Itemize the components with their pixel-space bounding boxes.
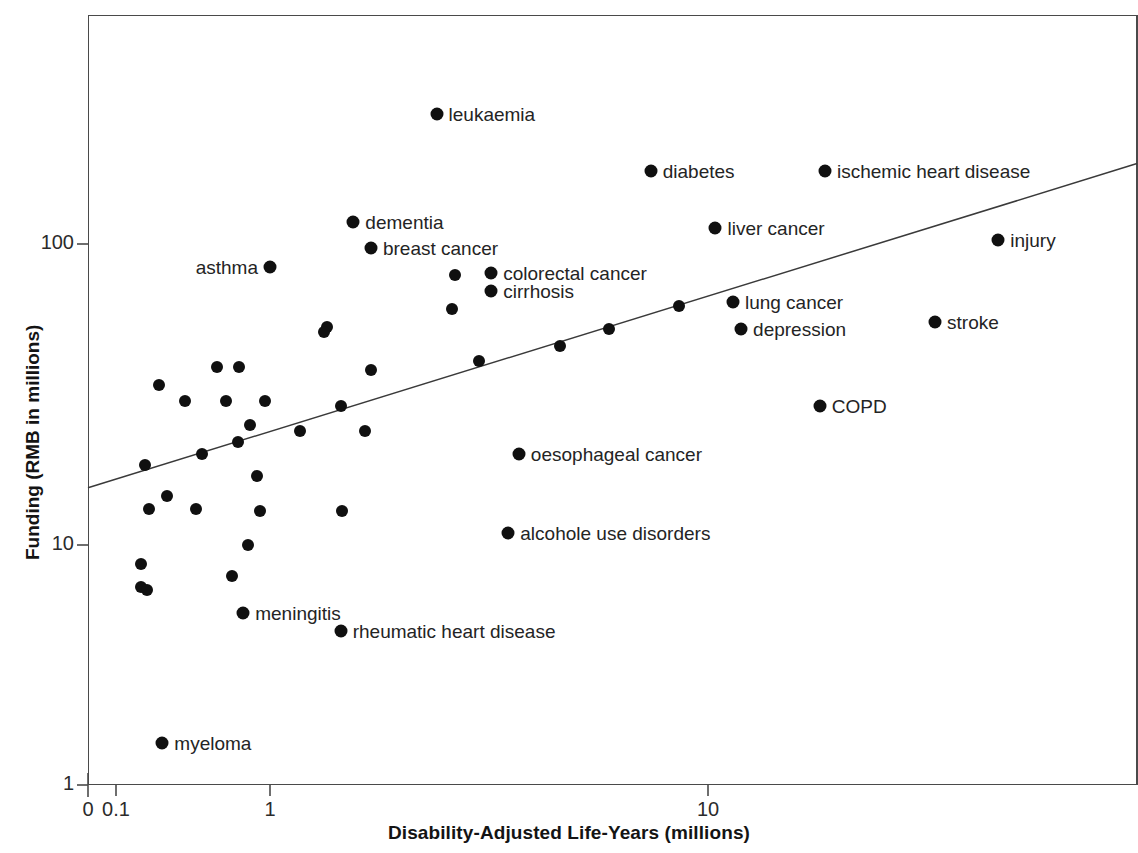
y-axis-title: Funding (RMB in millions) [22, 325, 44, 560]
data-point-unlabeled [139, 459, 151, 471]
data-point-unlabeled [259, 395, 271, 407]
data-point-label: dementia [365, 213, 443, 232]
data-point-unlabeled [446, 303, 458, 315]
x-tick-label: 1 [230, 798, 310, 821]
x-axis-title: Disability-Adjusted Life-Years (millions… [0, 822, 1138, 844]
data-point [156, 736, 169, 749]
data-point [726, 296, 739, 309]
data-point-unlabeled [254, 505, 266, 517]
data-point-label: oesophageal cancer [531, 445, 702, 464]
data-point-unlabeled [365, 364, 377, 376]
data-point-unlabeled [135, 558, 147, 570]
data-point [819, 164, 832, 177]
data-point-unlabeled [196, 448, 208, 460]
x-tick-label: 0.1 [76, 798, 156, 821]
data-point [502, 526, 515, 539]
data-point-unlabeled [244, 419, 256, 431]
data-point-unlabeled [211, 361, 223, 373]
data-point-unlabeled [449, 269, 461, 281]
data-point-label: diabetes [663, 161, 735, 180]
data-point-unlabeled [603, 323, 615, 335]
data-point-unlabeled [242, 539, 254, 551]
data-point-label: cirrhosis [503, 281, 574, 300]
data-point [929, 316, 942, 329]
data-point [364, 241, 377, 254]
data-point [264, 260, 277, 273]
data-point [485, 284, 498, 297]
data-point [992, 234, 1005, 247]
data-point-label: myeloma [174, 733, 251, 752]
data-point [347, 216, 360, 229]
data-point-unlabeled [161, 490, 173, 502]
data-point [430, 108, 443, 121]
data-point-label: rheumatic heart disease [353, 621, 556, 640]
data-point-unlabeled [473, 355, 485, 367]
data-point [735, 323, 748, 336]
y-tick-label: 1 [0, 772, 74, 795]
data-point-unlabeled [335, 400, 347, 412]
data-point-unlabeled [141, 584, 153, 596]
data-point-unlabeled [179, 395, 191, 407]
data-point-label: depression [753, 320, 846, 339]
data-point [512, 448, 525, 461]
data-point-label: meningitis [255, 604, 341, 623]
data-point-label: alcohole use disorders [520, 523, 710, 542]
data-point-unlabeled [336, 505, 348, 517]
data-point [813, 399, 826, 412]
data-point-unlabeled [294, 425, 306, 437]
data-point [709, 222, 722, 235]
data-point-unlabeled [232, 436, 244, 448]
data-point-unlabeled [220, 395, 232, 407]
data-point-unlabeled [554, 340, 566, 352]
data-point [334, 624, 347, 637]
data-point-unlabeled [153, 379, 165, 391]
data-point [237, 607, 250, 620]
data-point-unlabeled [143, 503, 155, 515]
x-tick-label: 10 [668, 798, 748, 821]
data-point [485, 267, 498, 280]
data-point-unlabeled [359, 425, 371, 437]
data-point [644, 164, 657, 177]
data-point-unlabeled [190, 503, 202, 515]
data-point-unlabeled [318, 326, 330, 338]
y-tick-label: 100 [0, 231, 74, 254]
data-point-unlabeled [673, 300, 685, 312]
data-point-label: injury [1010, 231, 1055, 250]
chart-canvas [0, 0, 1138, 853]
data-point-label: asthma [196, 257, 258, 276]
data-point-label: stroke [947, 313, 999, 332]
data-point-label: liver cancer [727, 219, 824, 238]
data-point-unlabeled [233, 361, 245, 373]
scatter-chart: leukaemiadiabetesischemic heart diseased… [0, 0, 1138, 853]
data-point-label: COPD [832, 396, 887, 415]
data-point-label: breast cancer [383, 238, 498, 257]
data-point-label: lung cancer [745, 293, 843, 312]
data-point-label: leukaemia [449, 105, 536, 124]
data-point-label: ischemic heart disease [837, 161, 1030, 180]
data-point-unlabeled [226, 570, 238, 582]
data-point-unlabeled [251, 470, 263, 482]
